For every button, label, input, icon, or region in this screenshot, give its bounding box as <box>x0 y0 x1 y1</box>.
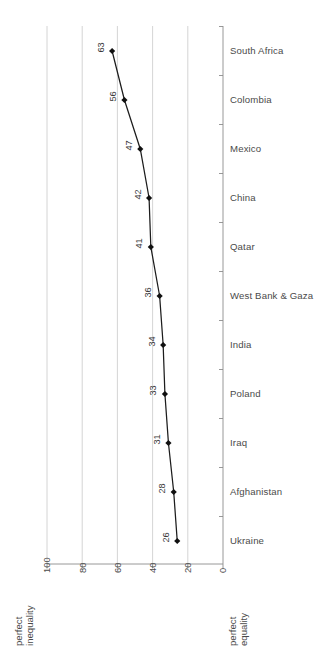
x-axis-group <box>47 564 223 569</box>
data-point-marker[interactable] <box>171 489 177 495</box>
value-label: 36 <box>143 287 153 297</box>
data-point-marker[interactable] <box>137 146 143 152</box>
value-label: 47 <box>124 140 134 150</box>
value-label: 56 <box>108 91 118 101</box>
value-label: 42 <box>133 189 143 199</box>
x-tick-labels-group: 100806040200 <box>41 557 228 573</box>
x-tick-label: 20 <box>182 563 193 573</box>
value-label: 28 <box>157 483 167 493</box>
category-labels-group: South AfricaColombiaMexicoChinaQatarWest… <box>230 45 314 546</box>
data-point-marker[interactable] <box>121 97 127 103</box>
value-label: 31 <box>152 434 162 444</box>
data-point-marker[interactable] <box>109 48 115 54</box>
perfect-equality-note-line2: equality <box>238 613 249 646</box>
value-label: 41 <box>134 238 144 248</box>
axis-annotations-group: perfectinequalityperfectequality <box>13 605 249 646</box>
category-label: Ukraine <box>230 535 264 546</box>
x-tick-label: 40 <box>147 563 158 573</box>
chart-canvas: 6356474241363433312826 South AfricaColom… <box>0 0 328 671</box>
x-tick-label: 60 <box>112 563 123 573</box>
category-label: Colombia <box>230 94 272 105</box>
category-label: South Africa <box>230 45 284 56</box>
data-point-marker[interactable] <box>165 440 171 446</box>
category-label: Poland <box>230 388 261 399</box>
data-point-marker[interactable] <box>160 342 166 348</box>
x-tick-label: 100 <box>41 557 52 573</box>
gini-index-chart: 6356474241363433312826 South AfricaColom… <box>0 0 328 671</box>
y-axis-group <box>219 26 223 564</box>
category-label: Mexico <box>230 143 261 154</box>
data-point-marker[interactable] <box>148 244 154 250</box>
data-point-marker[interactable] <box>157 293 163 299</box>
category-label: Qatar <box>230 241 255 252</box>
category-label: Iraq <box>230 437 247 448</box>
category-label: West Bank & Gaza <box>230 290 314 301</box>
value-label: 63 <box>96 42 106 52</box>
x-tick-label: 0 <box>217 568 228 573</box>
x-tick-label: 80 <box>77 563 88 573</box>
data-point-marker[interactable] <box>146 195 152 201</box>
value-label: 34 <box>147 336 157 346</box>
category-label: China <box>230 192 256 203</box>
perfect-equality-note-line1: perfect <box>227 616 238 646</box>
value-label: 26 <box>161 532 171 542</box>
data-point-marker[interactable] <box>162 391 168 397</box>
perfect-inequality-note-line1: perfect <box>13 616 24 646</box>
perfect-inequality-note-line2: inequality <box>24 605 35 646</box>
data-point-marker[interactable] <box>174 538 180 544</box>
value-label: 33 <box>148 385 158 395</box>
category-label: Afghanistan <box>230 486 282 497</box>
category-label: India <box>230 339 252 350</box>
